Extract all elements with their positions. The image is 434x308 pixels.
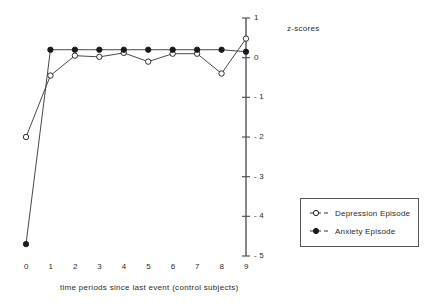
data-point-filled-circle bbox=[72, 47, 77, 52]
y-tick-label: - 5 bbox=[254, 251, 264, 260]
open-circle-marker-icon bbox=[309, 208, 329, 218]
data-point-open-circle bbox=[23, 134, 28, 139]
y-tick-label: - 2 bbox=[254, 132, 264, 141]
data-point-filled-circle bbox=[48, 47, 53, 52]
filled-circle-marker-icon bbox=[309, 226, 329, 236]
data-point-filled-circle bbox=[219, 47, 224, 52]
y-tick-label: - 4 bbox=[254, 211, 264, 220]
legend-item-anxiety[interactable]: Anxiety Episode bbox=[309, 226, 395, 236]
y-tick-label: 1 bbox=[254, 13, 259, 22]
data-point-open-circle bbox=[97, 54, 102, 59]
x-tick-label: 0 bbox=[24, 262, 29, 271]
series-anxiety bbox=[23, 47, 248, 247]
data-point-filled-circle bbox=[194, 47, 199, 52]
series-line bbox=[26, 39, 246, 137]
y-axis-title: z-scores bbox=[287, 24, 320, 33]
data-point-filled-circle bbox=[97, 47, 102, 52]
x-tick-label: 4 bbox=[122, 262, 127, 271]
legend: Depression Episode Anxiety Episode bbox=[300, 198, 419, 247]
data-point-filled-circle bbox=[121, 47, 126, 52]
data-point-open-circle bbox=[48, 73, 53, 78]
y-tick-label: - 1 bbox=[254, 92, 264, 101]
x-axis-caption: time periods since last event (control s… bbox=[60, 283, 238, 292]
x-tick-label: 2 bbox=[73, 262, 78, 271]
x-tick-label: 1 bbox=[48, 262, 53, 271]
legend-item-depression[interactable]: Depression Episode bbox=[309, 208, 410, 218]
y-tick-label: - 3 bbox=[254, 172, 264, 181]
chart-figure: 10- 1- 2- 3- 4- 5 0123456789 z-scores ti… bbox=[0, 0, 434, 308]
data-series-layer bbox=[23, 36, 248, 247]
x-tick-label: 3 bbox=[97, 262, 102, 271]
data-point-filled-circle bbox=[23, 241, 28, 246]
y-tick-label: 0 bbox=[254, 53, 259, 62]
series-line bbox=[26, 50, 246, 244]
data-point-open-circle bbox=[243, 36, 248, 41]
legend-label-depression: Depression Episode bbox=[335, 209, 410, 218]
series-depression bbox=[23, 36, 248, 140]
x-tick-label: 9 bbox=[244, 262, 249, 271]
legend-label-anxiety: Anxiety Episode bbox=[335, 227, 395, 236]
data-point-filled-circle bbox=[146, 47, 151, 52]
data-point-open-circle bbox=[72, 53, 77, 58]
x-tick-label: 5 bbox=[146, 262, 151, 271]
data-point-filled-circle bbox=[243, 49, 248, 54]
data-point-open-circle bbox=[146, 59, 151, 64]
data-point-open-circle bbox=[219, 71, 224, 76]
x-tick-label: 8 bbox=[220, 262, 225, 271]
x-tick-label: 6 bbox=[171, 262, 176, 271]
chart-plot-area bbox=[0, 0, 434, 308]
data-point-filled-circle bbox=[170, 47, 175, 52]
x-tick-label: 7 bbox=[195, 262, 200, 271]
